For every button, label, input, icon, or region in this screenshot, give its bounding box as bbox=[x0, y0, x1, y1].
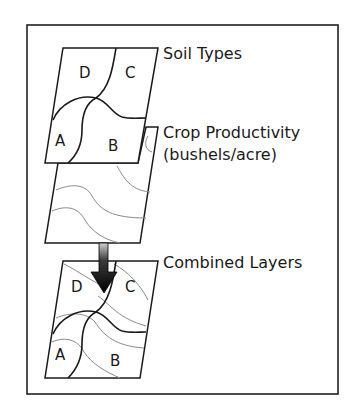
region-label-a: A bbox=[55, 132, 66, 150]
region-label-c: C bbox=[125, 64, 135, 82]
label-soil-types: Soil Types bbox=[163, 44, 242, 63]
label-combined-layers: Combined Layers bbox=[163, 253, 302, 272]
soil-types-layer: D C A B bbox=[45, 48, 158, 163]
combined-region-label-c: C bbox=[125, 278, 135, 296]
combined-region-label-b: B bbox=[110, 352, 120, 370]
region-label-b: B bbox=[108, 137, 118, 155]
label-crop-productivity: Crop Productivity bbox=[163, 123, 300, 142]
region-label-d: D bbox=[79, 64, 91, 82]
overlay-diagram: D C A B D C A B Soil Types Crop Producti… bbox=[0, 0, 356, 411]
combined-region-label-a: A bbox=[55, 346, 66, 364]
combined-region-label-d: D bbox=[71, 278, 83, 296]
label-crop-units: (bushels/acre) bbox=[163, 145, 277, 164]
